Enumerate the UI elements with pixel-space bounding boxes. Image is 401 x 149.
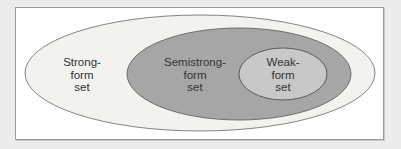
weak-form-set-label: Weak- form set [253,56,313,94]
semistrong-form-set-label: Semistrong- form set [150,56,240,94]
label-line: set [150,81,240,94]
label-line: Semistrong- [150,56,240,69]
label-line: form [48,69,116,82]
label-line: set [253,81,313,94]
label-line: Weak- [253,56,313,69]
label-line: Strong- [48,56,116,69]
label-line: form [253,69,313,82]
label-line: form [150,69,240,82]
strong-form-set-label: Strong- form set [48,56,116,94]
label-line: set [48,81,116,94]
